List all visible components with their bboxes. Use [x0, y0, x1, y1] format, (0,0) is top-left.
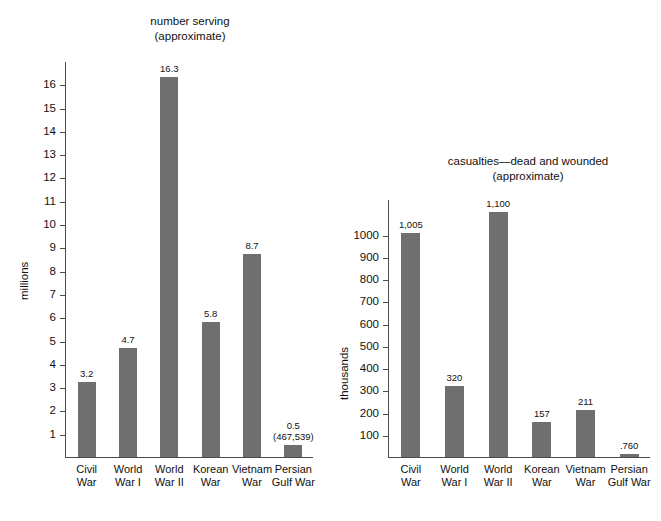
bar[interactable]: 4.7 — [119, 348, 137, 457]
bar-value-label: 0.5(467,539) — [273, 420, 314, 442]
bar[interactable]: 157 — [532, 422, 551, 457]
y-axis-tick-label: 1 — [50, 428, 56, 440]
x-axis-category-label: WorldWar I — [440, 463, 469, 489]
bar-value-label: 157 — [534, 408, 550, 419]
x-axis-category-label-line2: War — [232, 476, 272, 489]
x-axis-category-label-line2: War — [524, 476, 559, 489]
x-axis-category-label-line2: Gulf War — [272, 476, 315, 489]
chart-title-casualties: casualties—dead and wounded (approximate… — [408, 154, 648, 184]
bar[interactable]: 1,005 — [401, 233, 420, 457]
y-axis-tick-label: 800 — [360, 273, 379, 285]
y-axis-tick: 300 — [383, 391, 389, 392]
y-axis-tick: 13 — [60, 155, 66, 156]
chart-title-line2: (approximate) — [95, 29, 285, 44]
bar-value-label: 5.8 — [204, 308, 217, 319]
x-axis-category-label-line2: War — [400, 476, 421, 489]
plot-area-number-serving: 123456789101112131415163.2CivilWar4.7Wor… — [65, 62, 313, 458]
x-axis-category-label: VietnamWar — [232, 463, 272, 489]
bar[interactable]: 1,100 — [489, 212, 508, 457]
y-axis-tick-label: 16 — [43, 78, 56, 90]
y-axis-tick: 14 — [60, 132, 66, 133]
chart-title-line2: (approximate) — [408, 169, 648, 184]
bar[interactable]: 211 — [576, 410, 595, 457]
y-axis-tick: 800 — [383, 280, 389, 281]
x-axis-category-label-line2: War — [565, 476, 605, 489]
y-axis-tick: 900 — [383, 258, 389, 259]
x-axis-category-label-line2: Gulf War — [608, 476, 651, 489]
y-axis-tick: 16 — [60, 85, 66, 86]
x-axis-category-label-line2: War — [76, 476, 97, 489]
y-axis-tick-label: 2 — [50, 404, 56, 416]
bar-value-label: 4.7 — [121, 334, 134, 345]
x-axis-category-label-line2: War I — [440, 476, 469, 489]
y-axis-tick: 2 — [60, 411, 66, 412]
y-axis-tick: 10 — [60, 225, 66, 226]
bar[interactable]: 5.8 — [202, 322, 220, 457]
y-axis-label-thousands: thousands — [338, 347, 350, 400]
plot-area-casualties: 10020030040050060070080090010001,005Civi… — [388, 200, 650, 458]
y-axis-tick-label: 500 — [360, 340, 379, 352]
y-axis-tick: 9 — [60, 248, 66, 249]
y-axis-tick-label: 700 — [360, 295, 379, 307]
y-axis-tick: 6 — [60, 318, 66, 319]
x-axis-category-label: PersianGulf War — [272, 463, 315, 489]
y-axis-tick-label: 12 — [43, 171, 56, 183]
x-axis-category-label-line2: War II — [484, 476, 513, 489]
y-axis-tick: 600 — [383, 325, 389, 326]
bar-value-label: 16.3 — [160, 63, 179, 74]
y-axis-tick: 3 — [60, 388, 66, 389]
bar[interactable]: .760 — [620, 454, 639, 457]
y-axis-tick: 15 — [60, 109, 66, 110]
y-axis-tick-label: 8 — [50, 265, 56, 277]
y-axis-tick: 11 — [60, 202, 66, 203]
x-axis-category-label: CivilWar — [400, 463, 421, 489]
y-axis-tick-label: 9 — [50, 241, 56, 253]
x-axis-category-label: KoreanWar — [524, 463, 559, 489]
y-axis-tick-label: 15 — [43, 102, 56, 114]
y-axis-tick: 1 — [60, 435, 66, 436]
y-axis-tick-label: 1000 — [353, 229, 379, 241]
y-axis-tick: 1000 — [383, 236, 389, 237]
y-axis-tick-label: 400 — [360, 362, 379, 374]
y-axis-tick-label: 100 — [360, 429, 379, 441]
y-axis-tick-label: 300 — [360, 384, 379, 396]
x-axis-category-label: KoreanWar — [193, 463, 228, 489]
x-axis-category-label-line2: War — [193, 476, 228, 489]
y-axis-tick-label: 14 — [43, 125, 56, 137]
bar-value-label: 1,005 — [399, 219, 423, 230]
chart-casualties: casualties—dead and wounded (approximate… — [330, 0, 661, 521]
y-axis-tick: 400 — [383, 369, 389, 370]
bar-value-label: 8.7 — [245, 240, 258, 251]
chart-page: number serving (approximate) millions 12… — [0, 0, 661, 521]
y-axis-tick-label: 200 — [360, 407, 379, 419]
y-axis-tick: 12 — [60, 178, 66, 179]
bar[interactable]: 0.5(467,539) — [284, 445, 302, 457]
bar[interactable]: 8.7 — [243, 254, 261, 457]
x-axis-category-label: CivilWar — [76, 463, 97, 489]
bar[interactable]: 320 — [445, 386, 464, 457]
x-axis-category-label: VietnamWar — [565, 463, 605, 489]
x-axis-category-label: WorldWar I — [114, 463, 143, 489]
bar-value-label: 1,100 — [486, 198, 510, 209]
y-axis-tick-label: 3 — [50, 381, 56, 393]
bar[interactable]: 16.3 — [160, 77, 178, 457]
bar[interactable]: 3.2 — [78, 382, 96, 457]
y-axis-tick-label: 900 — [360, 251, 379, 263]
y-axis-tick-label: 11 — [44, 195, 56, 207]
x-axis-category-label-line2: War I — [114, 476, 143, 489]
y-axis-tick: 5 — [60, 342, 66, 343]
y-axis-tick-label: 6 — [50, 311, 56, 323]
chart-title-line1: casualties—dead and wounded — [408, 154, 648, 169]
chart-title-number-serving: number serving (approximate) — [95, 14, 285, 44]
y-axis-tick-label: 5 — [50, 335, 56, 347]
bar-value-sublabel: (467,539) — [273, 431, 314, 442]
y-axis-tick-label: 600 — [360, 318, 379, 330]
x-axis-category-label-line2: War II — [155, 476, 184, 489]
x-axis-category-label: WorldWar II — [155, 463, 184, 489]
y-axis-tick: 4 — [60, 365, 66, 366]
y-axis-label-millions: millions — [18, 262, 30, 300]
chart-number-serving: number serving (approximate) millions 12… — [0, 0, 330, 521]
y-axis-tick-label: 7 — [50, 288, 56, 300]
y-axis-tick-label: 4 — [50, 358, 56, 370]
y-axis-tick: 7 — [60, 295, 66, 296]
